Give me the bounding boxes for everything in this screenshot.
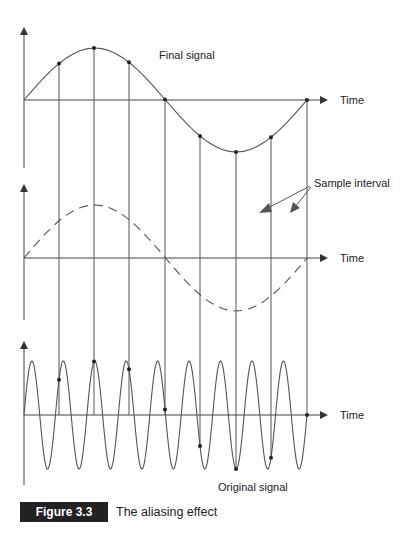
original-sample-dot [163,408,167,412]
final-signal-label: Final signal [159,49,215,61]
aliasing-diagram: Final signal Sample interval Original si… [0,0,401,554]
figure-title: The aliasing effect [116,505,217,519]
arrowhead-icon [290,202,300,213]
original-sample-dot [57,378,61,382]
figure-caption: Figure 3.3 The aliasing effect [20,502,217,522]
final-sample-dot [234,150,238,154]
arrowhead-icon [259,203,272,213]
axes-group [24,29,326,485]
original-sample-dot [127,367,131,371]
original-signal-label: Original signal [218,481,288,493]
final-sample-dot [269,135,273,139]
original-sample-dot [92,360,96,364]
final-sample-dot [198,134,202,138]
sample-interval-label: Sample interval [314,177,390,189]
original-sample-dot [234,467,238,471]
original-sample-dot [305,413,309,417]
final-sample-dot [92,46,96,50]
original-sample-dot [198,444,202,448]
time-label-bottom: Time [340,409,364,421]
final-sample-dot [127,60,131,64]
final-sample-dot [305,98,309,102]
figure-number-badge: Figure 3.3 [20,502,108,522]
time-label-top: Time [340,94,364,106]
sample-interval-arrows [259,186,311,213]
original-sample-dot [269,456,273,460]
final-sample-dot [57,62,61,66]
time-label-middle: Time [340,252,364,264]
final-sample-dot [163,97,167,101]
